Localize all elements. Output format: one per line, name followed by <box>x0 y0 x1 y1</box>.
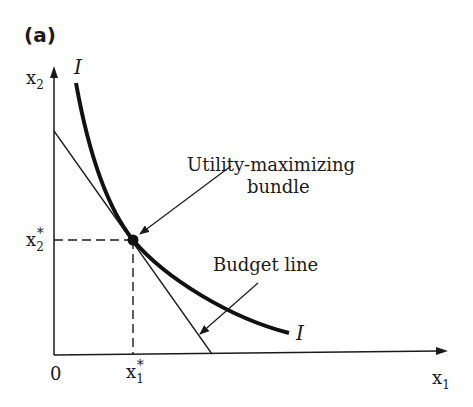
origin-label: 0 <box>50 363 61 384</box>
x2-star-label: x2* <box>26 225 44 254</box>
y-axis-label: x2 <box>26 67 44 92</box>
budget-annotation-arrow <box>200 283 258 334</box>
utility-maximization-diagram: (a) x2 x1 0 I I x2* x1* Utility-maximizi… <box>0 0 473 407</box>
panel-label: (a) <box>24 23 56 47</box>
x-axis-arrow-icon <box>436 347 448 355</box>
utility-annotation-line1: Utility-maximizing <box>187 154 355 175</box>
optimum-point <box>128 235 139 246</box>
x-axis <box>54 351 440 355</box>
indifference-label-top: I <box>73 55 83 79</box>
y-axis-arrow-icon <box>50 66 58 78</box>
utility-annotation-line2: bundle <box>247 176 310 197</box>
x-axis-label: x1 <box>432 367 450 392</box>
utility-annotation-arrow <box>140 166 231 234</box>
x1-star-label: x1* <box>126 357 144 386</box>
budget-annotation: Budget line <box>213 254 318 275</box>
indifference-label-bottom: I <box>295 321 305 345</box>
